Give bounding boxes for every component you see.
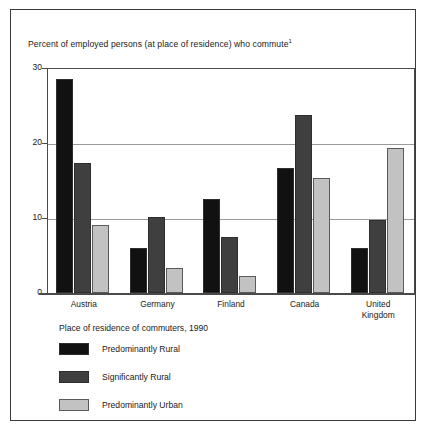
x-axis-baseline xyxy=(39,293,416,295)
legend-label: Predominantly Urban xyxy=(102,400,183,410)
legend-label: Predominantly Rural xyxy=(102,344,180,354)
bar xyxy=(203,199,220,293)
x-category-label: Germany xyxy=(121,299,195,310)
chart-title-text: Percent of employed persons (at place of… xyxy=(28,39,289,49)
legend-swatch xyxy=(59,343,89,355)
x-category-label-line: Austria xyxy=(47,299,121,310)
bar xyxy=(221,237,238,293)
bar xyxy=(295,115,312,293)
bar-group xyxy=(195,69,269,293)
y-tick-mark xyxy=(42,218,47,219)
bar xyxy=(369,220,386,293)
chart-title: Percent of employed persons (at place of… xyxy=(28,39,292,49)
bar xyxy=(130,248,147,293)
x-category-label-line: Germany xyxy=(121,299,195,310)
y-tick-label: 10 xyxy=(32,213,42,222)
y-tick-mark xyxy=(42,68,47,69)
bar xyxy=(148,217,165,294)
bar-group xyxy=(48,69,122,293)
x-category-label: UnitedKingdom xyxy=(341,299,415,320)
y-axis: 0102030 xyxy=(23,10,42,310)
bar-group xyxy=(269,69,343,293)
legend-item: Predominantly Urban xyxy=(59,398,379,411)
bar-group xyxy=(342,69,416,293)
x-category-label-line: Finland xyxy=(194,299,268,310)
x-category-label: Canada xyxy=(268,299,342,310)
bar xyxy=(313,178,330,294)
bar xyxy=(351,248,368,293)
legend-swatch xyxy=(59,399,89,411)
figure-panel: Percent of employed persons (at place of… xyxy=(10,9,416,421)
x-category-label-line: Kingdom xyxy=(341,310,415,321)
x-category-label-line: Canada xyxy=(268,299,342,310)
bar xyxy=(239,276,256,293)
plot-area xyxy=(47,68,415,293)
legend-swatch xyxy=(59,371,89,383)
x-category-label: Austria xyxy=(47,299,121,310)
bar xyxy=(74,163,91,293)
bar-group xyxy=(122,69,196,293)
bar xyxy=(277,168,294,293)
legend-label: Significantly Rural xyxy=(102,372,171,382)
plot-inner xyxy=(48,69,414,293)
chart-title-footnote-marker: 1 xyxy=(289,38,292,44)
legend-item: Significantly Rural xyxy=(59,370,379,383)
y-tick-mark xyxy=(42,293,47,294)
legend-rows: Predominantly RuralSignificantly RuralPr… xyxy=(59,342,379,411)
x-category-label-line: United xyxy=(341,299,415,310)
chart-legend: Place of residence of commuters, 1990 Pr… xyxy=(59,323,379,426)
bar xyxy=(56,79,73,294)
y-tick-mark xyxy=(42,143,47,144)
bar xyxy=(92,225,109,293)
legend-title: Place of residence of commuters, 1990 xyxy=(59,323,379,333)
legend-item: Predominantly Rural xyxy=(59,342,379,355)
bar xyxy=(166,268,183,294)
y-tick-label: 30 xyxy=(32,63,42,72)
y-tick-label: 20 xyxy=(32,138,42,147)
bar xyxy=(387,148,404,293)
x-category-label: Finland xyxy=(194,299,268,310)
